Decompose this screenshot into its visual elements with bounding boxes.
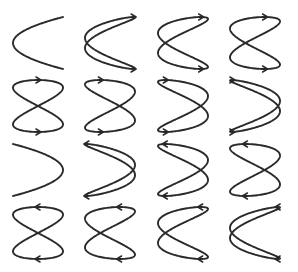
lissajous-curve [230,17,280,69]
lissajous-curve [158,207,208,259]
lissajous-curve [13,207,63,259]
lissajous-figure-16 [230,204,280,262]
lissajous-curve [13,144,63,196]
lissajous-figure-10 [84,141,135,199]
lissajous-figure-4 [230,14,280,72]
lissajous-figure-2 [85,14,136,72]
lissajous-curve [158,144,208,196]
lissajous-curve [85,17,135,69]
lissajous-curve [230,207,280,259]
lissajous-figure-11 [158,141,208,199]
lissajous-figure-13 [13,204,63,262]
lissajous-figure-1 [13,17,63,69]
lissajous-figure-3 [158,14,208,72]
lissajous-figure-7 [158,77,208,135]
lissajous-curve [13,17,63,69]
lissajous-figure-grid [0,0,298,272]
lissajous-figure-9 [13,144,63,196]
lissajous-figure-6 [85,77,135,135]
lissajous-figure-15 [158,204,208,262]
lissajous-curve [85,144,135,196]
lissajous-curve [230,80,280,132]
lissajous-diagram [0,0,298,272]
lissajous-curve [85,80,135,132]
lissajous-figure-12 [230,141,280,199]
lissajous-curve [13,80,63,132]
lissajous-curve [158,80,208,132]
lissajous-figure-5 [13,77,63,135]
lissajous-curve [85,207,135,259]
lissajous-curve [158,17,208,69]
lissajous-curve [230,144,280,196]
lissajous-figure-8 [230,77,280,135]
lissajous-figure-14 [85,204,135,262]
